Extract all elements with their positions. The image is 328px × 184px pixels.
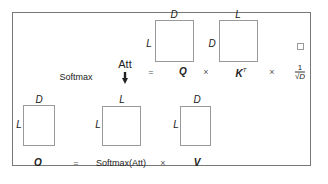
times-top-1: × bbox=[203, 67, 208, 77]
o-box-left-dim: L bbox=[16, 120, 22, 130]
k-matrix-box bbox=[219, 20, 258, 62]
transpose-sup: T bbox=[243, 67, 247, 73]
v-label: V bbox=[194, 158, 201, 168]
v-box-top-dim: D bbox=[193, 95, 200, 105]
softmax-att-label: Softmax(Att) bbox=[96, 158, 146, 168]
q-matrix-box bbox=[155, 20, 194, 62]
equals-bottom: = bbox=[73, 158, 78, 168]
o-label: O bbox=[34, 158, 42, 168]
q-label: Q bbox=[179, 67, 187, 77]
arrow-down-icon bbox=[122, 72, 128, 84]
scale-fraction: 1 √D bbox=[295, 64, 305, 81]
q-box-top-dim: D bbox=[170, 10, 177, 20]
softmax-matrix-box bbox=[102, 106, 141, 146]
scalar-box bbox=[297, 43, 304, 50]
kt-label: KT bbox=[236, 65, 247, 78]
scale-denominator: √D bbox=[295, 73, 305, 81]
sm-box-left-dim: L bbox=[95, 120, 101, 130]
k-box-top-dim: L bbox=[235, 10, 241, 20]
times-bottom: × bbox=[160, 158, 165, 168]
o-matrix-box bbox=[23, 105, 55, 146]
o-box-top-dim: D bbox=[35, 95, 42, 105]
q-box-left-dim: L bbox=[146, 39, 152, 49]
k-box-left-dim: D bbox=[208, 39, 215, 49]
v-matrix-box bbox=[180, 106, 211, 146]
softmax-label: Softmax bbox=[59, 72, 92, 82]
equals-top: = bbox=[148, 67, 153, 77]
att-label: Att bbox=[118, 59, 131, 69]
v-box-left-dim: L bbox=[173, 120, 179, 130]
sm-box-top-dim: L bbox=[119, 95, 125, 105]
times-top-2: × bbox=[269, 67, 274, 77]
